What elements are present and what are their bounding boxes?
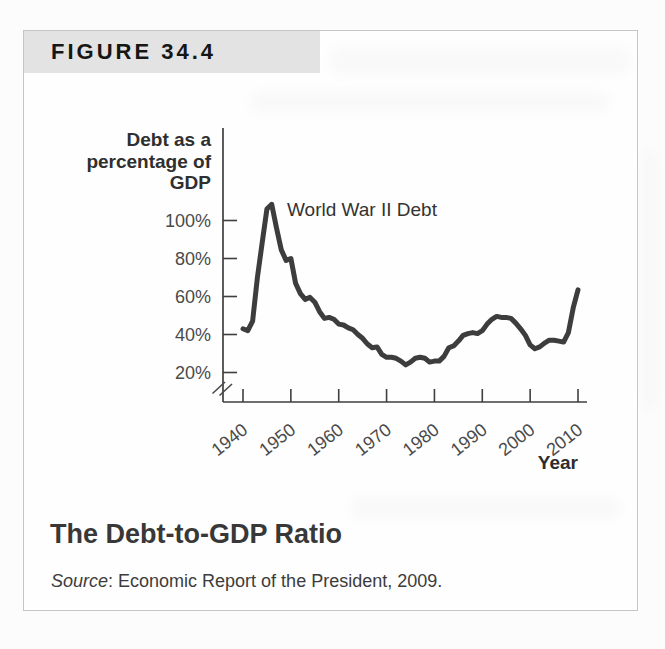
y-axis-title-line: percentage of [86,151,211,172]
debt-to-gdp-line-chart: 100%80%60%40%20%194019501960197019801990… [0,0,665,649]
ww2-debt-annotation: World War II Debt [287,199,438,220]
debt-gdp-line [243,204,578,365]
y-tick-label: 60% [175,287,211,307]
figure-caption-title: The Debt-to-GDP Ratio [50,519,342,550]
figure-source-line: Source: Economic Report of the President… [51,571,442,592]
y-tick-label: 100% [165,211,211,231]
x-tick-label: 1980 [399,419,443,459]
x-tick-label: 1970 [351,419,395,459]
y-tick-label: 20% [175,363,211,383]
x-axis-title: Year [538,452,579,473]
x-tick-label: 1940 [208,419,252,459]
x-tick-label: 2000 [495,419,539,459]
page: { "figure": { "header_label": "FIGURE 34… [0,0,665,649]
y-axis-title-line: Debt as a [127,129,212,150]
x-tick-label: 1990 [447,419,491,459]
source-text: : Economic Report of the President, 2009… [108,571,442,591]
x-tick-label: 1950 [255,419,299,459]
source-label: Source [51,571,108,591]
y-tick-label: 40% [175,325,211,345]
x-tick-label: 1960 [303,419,347,459]
y-tick-label: 80% [175,249,211,269]
y-axis-title-line: GDP [170,172,212,193]
